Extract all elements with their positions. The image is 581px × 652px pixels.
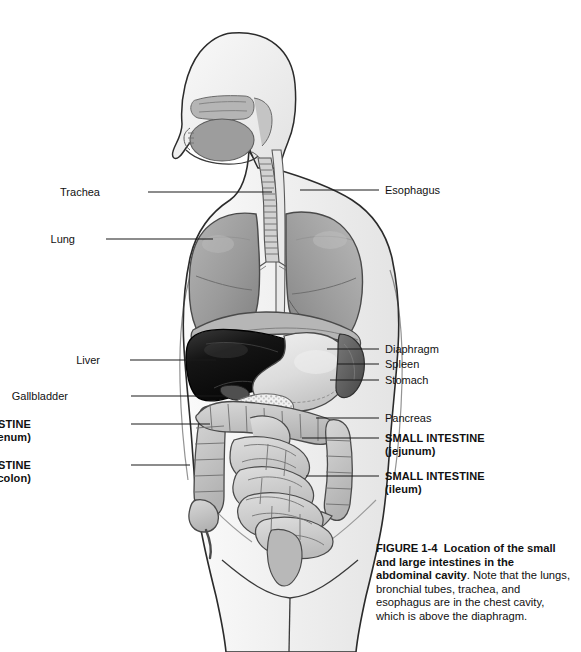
label-stomach: Stomach	[385, 374, 428, 387]
head-group	[173, 33, 296, 168]
figure-1-4: TracheaLungLiverGallbladderSMALL INTESTI…	[0, 0, 581, 652]
label-esophagus: Esophagus	[385, 184, 440, 197]
label-text: SMALL INTESTINE	[0, 418, 31, 430]
label-spleen: Spleen	[385, 358, 419, 371]
label-diaphragm: Diaphragm	[385, 343, 439, 356]
label-liver: Liver	[76, 354, 100, 367]
label-subtext: (duodenum)	[0, 431, 31, 444]
label-trachea: Trachea	[60, 186, 100, 199]
label-small-intestine-duodenum: SMALL INTESTINE(duodenum)	[0, 418, 31, 444]
label-text: SMALL INTESTINE	[385, 432, 485, 444]
label-subtext: (ileum)	[385, 483, 485, 496]
label-small-intestine-ileum: SMALL INTESTINE(ileum)	[385, 470, 485, 496]
label-small-intestine-jejunum: SMALL INTESTINE(jejunum)	[385, 432, 485, 458]
figure-caption: FIGURE 1-4 Location of the small and lar…	[376, 542, 572, 624]
label-text: Pancreas	[385, 412, 431, 424]
label-large-intestine-colon: LARGE INTESTINE(colon)	[0, 459, 31, 485]
label-text: Liver	[76, 354, 100, 366]
label-lung: Lung	[51, 233, 75, 246]
label-text: Stomach	[385, 374, 428, 386]
label-subtext: (colon)	[0, 472, 31, 485]
label-text: Esophagus	[385, 184, 440, 196]
label-pancreas: Pancreas	[385, 412, 431, 425]
label-text: Spleen	[385, 358, 419, 370]
label-text: Lung	[51, 233, 75, 245]
nasal-cavity	[191, 96, 254, 120]
label-subtext: (jejunum)	[385, 445, 485, 458]
label-text: Gallbladder	[12, 390, 68, 402]
label-text: SMALL INTESTINE	[385, 470, 485, 482]
label-text: Diaphragm	[385, 343, 439, 355]
figure-number: FIGURE 1-4	[376, 542, 438, 554]
label-text: LARGE INTESTINE	[0, 459, 31, 471]
label-text: Trachea	[60, 186, 100, 198]
oral-cavity	[190, 119, 254, 161]
label-gallbladder: Gallbladder	[12, 390, 68, 403]
